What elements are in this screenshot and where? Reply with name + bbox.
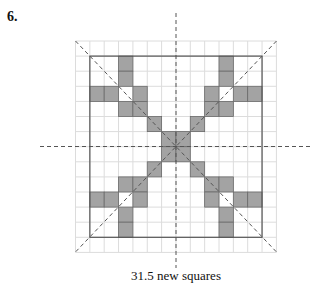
shaded-square (119, 207, 133, 222)
shaded-square (133, 86, 147, 101)
shaded-square (133, 192, 147, 207)
symmetry-grid-figure (0, 0, 312, 284)
caption: 31.5 new squares (0, 268, 312, 284)
shaded-square (219, 177, 233, 192)
shaded-square (104, 86, 118, 101)
shaded-square (119, 101, 133, 116)
shaded-square (90, 86, 104, 101)
shaded-square (119, 222, 133, 237)
shaded-square (119, 177, 133, 192)
shaded-square (219, 56, 233, 71)
shaded-square (219, 71, 233, 86)
shaded-square (90, 192, 104, 207)
shaded-square (104, 192, 118, 207)
shaded-square (119, 56, 133, 71)
shaded-square (219, 101, 233, 116)
shaded-square (219, 222, 233, 237)
shaded-square (205, 86, 219, 101)
shaded-square (119, 71, 133, 86)
shaded-square (233, 192, 247, 207)
shaded-square (219, 207, 233, 222)
shaded-square (248, 192, 262, 207)
shaded-square (233, 86, 247, 101)
shaded-square (205, 192, 219, 207)
shaded-square (248, 86, 262, 101)
